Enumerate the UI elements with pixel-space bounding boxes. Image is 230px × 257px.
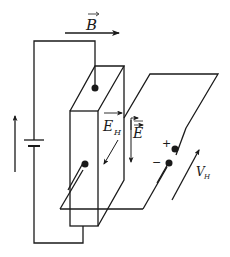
top-terminal-dot xyxy=(92,85,99,92)
hall-field-label: E xyxy=(102,118,113,134)
left-probe-dot xyxy=(82,161,89,168)
positive-terminal-dot xyxy=(172,146,179,153)
battery-icon xyxy=(24,140,44,146)
circuit-wire xyxy=(34,41,95,243)
hall-field-subscript: H xyxy=(113,128,122,137)
hall-effect-diagram: B E H E + − V H xyxy=(0,0,230,257)
plus-sign: + xyxy=(162,137,171,150)
hall-voltage-subscript: H xyxy=(203,173,211,181)
hall-plane xyxy=(60,74,218,209)
b-field-label: B xyxy=(85,16,97,34)
hall-voltage-arrow xyxy=(172,150,199,200)
electric-field-label: E xyxy=(132,125,143,141)
minus-sign: − xyxy=(152,156,161,169)
negative-terminal-dot xyxy=(166,160,173,167)
